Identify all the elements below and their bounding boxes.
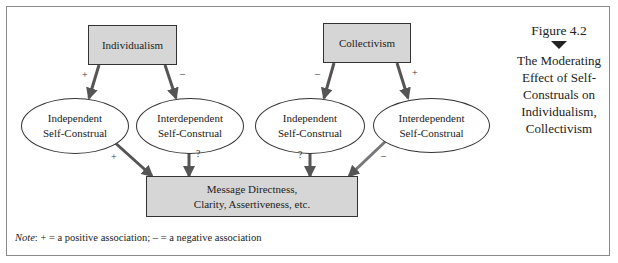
figure-title-line-5: Collectivism [507,120,611,137]
ind-independent-line1: Independent [48,111,102,126]
ind-interdependent-line2: Self-Construal [158,126,222,141]
arrow-collectivism-to-independent [324,63,334,98]
outcome-line2: Clarity, Assertiveness, etc. [194,197,310,212]
arrow-ind-independent-to-outcome [112,140,152,176]
figure-caption: Figure 4.2 The Moderating Effect of Self… [507,22,611,137]
individualism-label: Individualism [102,38,163,52]
sign-col-independent-outcome: ? [298,150,302,160]
caption-triangle-icon [551,41,567,49]
collectivism-box: Collectivism [323,23,411,63]
ellipse-col-interdependent: Interdependent Self-Construal [373,98,490,153]
figure-number: Figure 4.2 [507,22,611,39]
sign-ind-interdependent-outcome: ? [196,149,200,159]
ellipse-ind-interdependent: Interdependent Self-Construal [136,98,244,154]
outcome-box: Message Directness, Clarity, Assertivene… [146,176,358,217]
ind-interdependent-line1: Interdependent [157,111,223,126]
sign-collectivism-independent: – [315,69,320,79]
collectivism-label: Collectivism [339,36,395,50]
figure-title-line-4: Individualism, [507,103,611,120]
figure-note: Note: + = a positive association; – = a … [15,232,261,243]
col-interdependent-line1: Interdependent [399,111,465,126]
col-interdependent-line2: Self-Construal [399,126,463,141]
note-label: Note [15,232,35,243]
outcome-line1: Message Directness, [207,182,297,197]
ind-independent-line2: Self-Construal [43,126,107,141]
figure-title-line-1: The Moderating [507,52,611,69]
sign-col-interdependent-outcome: – [381,151,386,161]
arrow-individualism-to-independent [89,65,99,98]
col-independent-line1: Independent [283,111,337,126]
sign-individualism-independent: + [82,70,88,80]
sign-collectivism-interdependent: + [412,68,418,78]
arrow-individualism-to-interdependent [165,65,176,98]
figure-title-line-2: Effect of Self- [507,69,611,86]
sign-ind-independent-outcome: + [111,152,117,162]
ellipse-col-independent: Independent Self-Construal [255,98,365,154]
figure-title-line-3: Construals on [507,86,611,103]
note-text: : + = a positive association; – = a nega… [35,232,262,243]
individualism-box: Individualism [88,25,177,65]
col-independent-line2: Self-Construal [278,126,342,141]
sign-individualism-interdependent: – [180,69,185,79]
ellipse-ind-independent: Independent Self-Construal [21,98,129,154]
arrow-collectivism-to-interdependent [397,63,408,98]
